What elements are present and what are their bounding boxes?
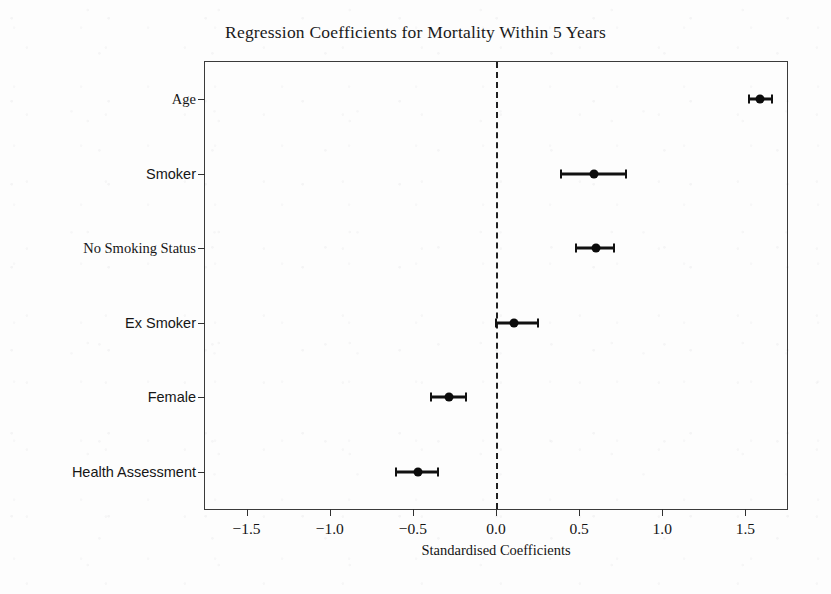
coefficient-marker [510, 318, 519, 327]
y-axis-label-no-smoking-status: No Smoking Status [83, 240, 196, 257]
confidence-interval-cap [613, 244, 615, 253]
chart-title: Regression Coefficients for Mortality Wi… [0, 22, 831, 43]
confidence-interval-cap [465, 393, 467, 402]
y-axis-label-health-assessment: Health Assessment [72, 464, 196, 480]
coefficient-marker [590, 169, 599, 178]
confidence-interval-cap [771, 95, 773, 104]
y-axis-tick [198, 248, 205, 249]
y-axis-tick [198, 323, 205, 324]
confidence-interval-cap [495, 318, 497, 327]
y-axis-tick [198, 472, 205, 473]
x-axis-tick-label: −0.5 [399, 520, 427, 538]
x-axis-tick-label: 1.0 [653, 520, 672, 538]
x-axis-tick [579, 509, 580, 516]
x-axis-tick-label: −1.5 [233, 520, 261, 538]
x-axis-tick [496, 509, 497, 516]
x-axis-tick [247, 509, 248, 516]
x-axis-tick-label: 0.0 [486, 520, 505, 538]
confidence-interval-cap [537, 318, 539, 327]
x-axis-tick-label: −1.0 [316, 520, 344, 538]
y-axis-tick [198, 397, 205, 398]
x-axis-tick [745, 509, 746, 516]
y-axis-tick [198, 174, 205, 175]
coefficient-marker [591, 244, 600, 253]
coefficient-marker [413, 467, 422, 476]
confidence-interval-cap [437, 467, 439, 476]
x-axis-title: Standardised Coefficients [204, 542, 788, 559]
y-axis-label-smoker: Smoker [146, 166, 196, 182]
y-axis-tick [198, 99, 205, 100]
y-axis-label-ex-smoker: Ex Smoker [125, 315, 196, 331]
zero-reference-line [496, 62, 498, 509]
coefficient-marker [756, 95, 765, 104]
coefficient-marker [445, 393, 454, 402]
confidence-interval-cap [748, 95, 750, 104]
x-axis-tick [330, 509, 331, 516]
regression-coefficient-figure: Regression Coefficients for Mortality Wi… [0, 0, 831, 594]
y-axis-label-age: Age [172, 91, 196, 108]
x-axis-tick-label: 1.5 [736, 520, 755, 538]
x-axis-tick [413, 509, 414, 516]
y-axis-label-female: Female [148, 389, 196, 405]
confidence-interval-cap [625, 169, 627, 178]
confidence-interval-cap [395, 467, 397, 476]
x-axis-tick-label: 0.5 [569, 520, 588, 538]
x-axis-tick [662, 509, 663, 516]
confidence-interval-cap [560, 169, 562, 178]
plot-area: AgeSmokerNo Smoking StatusEx SmokerFemal… [204, 61, 788, 510]
confidence-interval-cap [575, 244, 577, 253]
confidence-interval-cap [430, 393, 432, 402]
